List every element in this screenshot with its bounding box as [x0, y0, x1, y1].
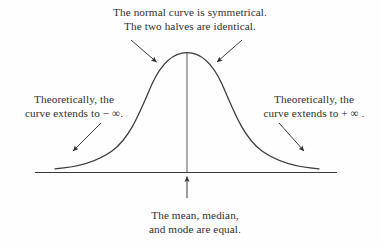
caption-bottom-line2: and mode are equal. — [110, 223, 280, 237]
top-left-arrow — [131, 40, 157, 62]
caption-bottom: The mean, median, and mode are equal. — [110, 209, 280, 236]
top-right-arrow — [217, 40, 242, 62]
caption-left: Theoretically, the curve extends to − ∞. — [8, 93, 140, 120]
right-tail-arrow — [279, 123, 304, 151]
caption-right: Theoretically, the curve extends to + ∞ … — [248, 93, 380, 120]
normal-curve-figure: The normal curve is symmetrical. The two… — [0, 0, 380, 247]
caption-top-line2: The two halves are identical. — [90, 20, 290, 34]
caption-left-line1: Theoretically, the — [8, 93, 140, 107]
left-tail-arrow — [73, 123, 101, 151]
caption-top: The normal curve is symmetrical. The two… — [90, 6, 290, 33]
caption-top-line1: The normal curve is symmetrical. — [90, 6, 290, 20]
caption-bottom-line1: The mean, median, — [110, 209, 280, 223]
caption-right-line2: curve extends to + ∞ . — [248, 107, 380, 121]
caption-right-line1: Theoretically, the — [248, 93, 380, 107]
caption-left-line2: curve extends to − ∞. — [8, 107, 140, 121]
